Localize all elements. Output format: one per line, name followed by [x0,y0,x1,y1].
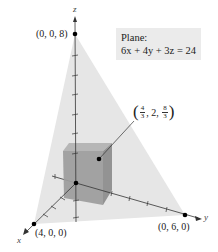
point-origin [74,181,79,186]
point-y-intercept [183,213,188,218]
x-axis-label: x [17,236,21,245]
y-coordinate: , 2, [146,107,161,118]
plane-equation-box: Plane: 6x + 4y + 3z = 24 [116,28,201,60]
close-paren: ) [169,102,175,121]
point-box-vertex [97,157,102,162]
z-intercept-label: (0, 0, 8) [36,29,68,39]
plane-box-diagram: z y x (0, 0, 8) (4, 0, 0) (0, 6, 0) (43,… [0,0,218,252]
plane-equation: 6x + 4y + 3z = 24 [121,44,201,57]
z-fraction: 83 [162,105,168,120]
y-intercept-label: (0, 6, 0) [158,222,190,232]
z-denominator: 3 [162,113,168,120]
x-intercept-label: (4, 0, 0) [35,228,67,238]
box-vertex-label: (43, 2, 83) [133,102,174,122]
plane-title: Plane: [121,31,201,44]
x-denominator: 3 [140,113,146,120]
point-z-intercept [73,32,78,37]
x-axis-arrow-icon [23,228,29,235]
inscribed-box [63,143,112,205]
z-axis-arrow-icon [73,16,77,22]
z-axis-label: z [73,5,77,14]
point-x-intercept [32,222,37,227]
y-axis-arrow-icon [195,216,202,221]
x-fraction: 43 [140,105,146,120]
y-axis-label: y [204,213,208,222]
plane-triangle [34,34,185,224]
open-paren: ( [133,102,139,121]
